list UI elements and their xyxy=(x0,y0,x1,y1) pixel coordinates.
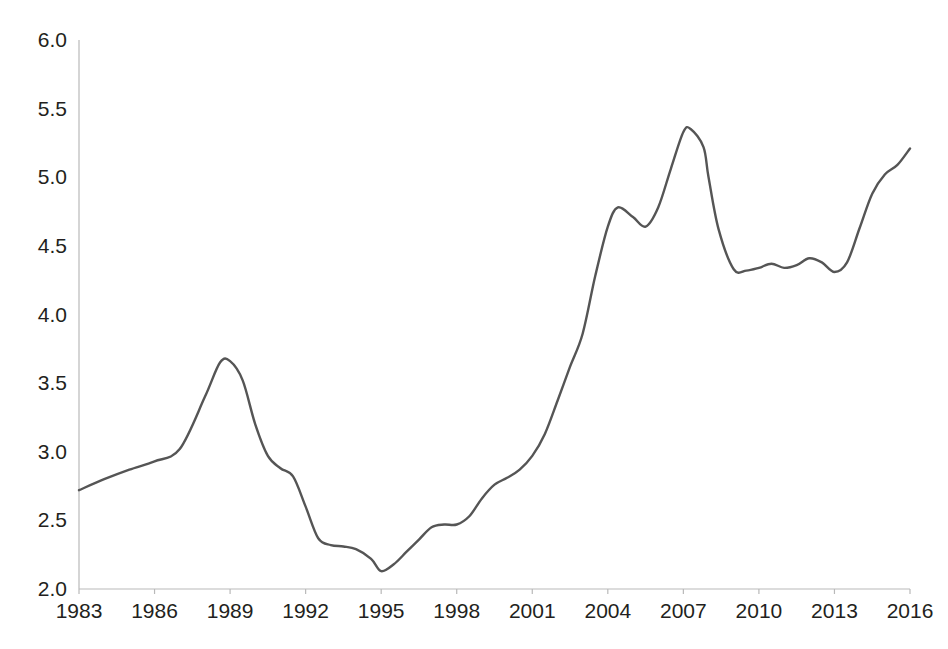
y-tick-label: 4.0 xyxy=(38,303,67,326)
x-tick-label: 2007 xyxy=(660,599,707,622)
y-tick-label: 2.0 xyxy=(38,577,67,600)
data-line-series-1 xyxy=(79,127,910,571)
x-tick-label: 2013 xyxy=(811,599,858,622)
x-tick-label: 2010 xyxy=(736,599,783,622)
x-tick-label: 2016 xyxy=(887,599,934,622)
y-tick-label: 5.0 xyxy=(38,165,67,188)
x-tick-label: 1983 xyxy=(56,599,103,622)
x-tick-label: 1998 xyxy=(433,599,480,622)
y-tick-label: 3.0 xyxy=(38,440,67,463)
x-axis: 1983198619891992199519982001200420072010… xyxy=(56,589,934,622)
y-tick-label: 4.5 xyxy=(38,234,67,257)
x-tick-label: 2004 xyxy=(584,599,631,622)
x-tick-label: 2001 xyxy=(509,599,556,622)
y-axis: 2.02.53.03.54.04.55.05.56.0 xyxy=(38,28,79,600)
y-tick-label: 3.5 xyxy=(38,371,67,394)
y-tick-label: 2.5 xyxy=(38,508,67,531)
x-tick-label: 1989 xyxy=(207,599,254,622)
data-series-layer xyxy=(79,127,910,571)
line-chart: 2.02.53.03.54.04.55.05.56.0 198319861989… xyxy=(0,0,948,649)
x-tick-label: 1986 xyxy=(131,599,178,622)
x-tick-label: 1995 xyxy=(358,599,405,622)
x-tick-label: 1992 xyxy=(282,599,329,622)
chart-canvas: 2.02.53.03.54.04.55.05.56.0 198319861989… xyxy=(0,0,948,649)
y-tick-label: 6.0 xyxy=(38,28,67,51)
y-tick-label: 5.5 xyxy=(38,97,67,120)
